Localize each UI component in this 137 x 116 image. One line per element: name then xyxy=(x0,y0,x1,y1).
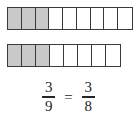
bar-cell-empty xyxy=(92,45,106,66)
bar-cell-empty xyxy=(91,8,105,29)
bar-cell-shaded xyxy=(22,8,36,29)
right-fraction-numerator: 3 xyxy=(82,80,94,96)
bar-cell-empty xyxy=(106,45,120,66)
left-fraction: 3 9 xyxy=(42,80,55,113)
bar-cell-shaded xyxy=(8,45,22,66)
bar-cell-empty xyxy=(50,45,64,66)
bar-cell-empty xyxy=(64,45,78,66)
bar-cell-shaded xyxy=(36,45,50,66)
right-fraction-denominator: 8 xyxy=(82,98,94,114)
fraction-bar-eight xyxy=(7,44,121,67)
bar-cell-empty xyxy=(104,8,118,29)
right-fraction: 3 8 xyxy=(82,80,95,113)
bar-cell-empty xyxy=(77,8,91,29)
left-fraction-denominator: 9 xyxy=(43,98,55,114)
bar-cell-empty xyxy=(78,45,92,66)
fraction-bar-nine xyxy=(7,7,133,30)
bar-cell-shaded xyxy=(8,8,22,29)
equals-sign: = xyxy=(64,90,72,105)
fraction-bar-figure: 3 9 = 3 8 xyxy=(0,0,137,116)
bar-cell-empty xyxy=(118,8,132,29)
bar-cell-shaded xyxy=(36,8,50,29)
left-fraction-numerator: 3 xyxy=(43,80,55,96)
bar-cell-empty xyxy=(63,8,77,29)
bar-cell-shaded xyxy=(22,45,36,66)
fraction-equation: 3 9 = 3 8 xyxy=(0,78,137,116)
bar-cell-empty xyxy=(49,8,63,29)
